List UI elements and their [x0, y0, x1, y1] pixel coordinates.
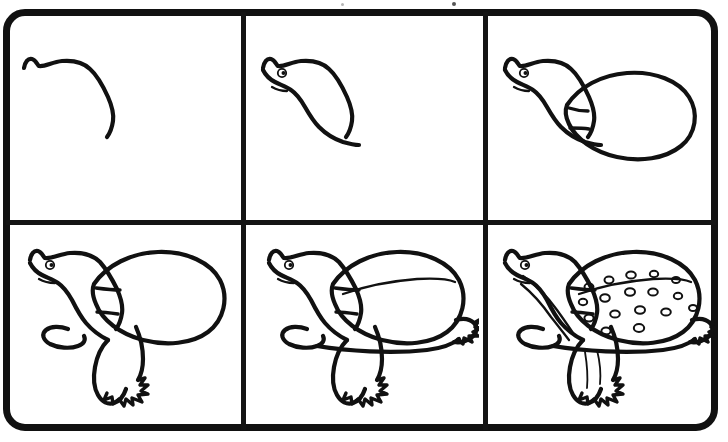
shell-neck-notch-lower — [97, 312, 118, 314]
step-6-drawing — [493, 232, 715, 428]
head-neck-top-curve — [24, 59, 113, 137]
eye-pupil — [50, 263, 54, 267]
shell-neck-notch-upper — [571, 288, 595, 290]
shell-ridge-line — [343, 279, 455, 294]
front-leg-outer-edge — [94, 340, 126, 404]
panel-divider-horizontal — [6, 220, 716, 225]
neck-stripe-lower — [521, 284, 569, 340]
front-flipper — [43, 327, 85, 348]
print-speck — [452, 2, 456, 6]
front-leg-stripe-2 — [597, 350, 600, 384]
drawing-step-panel-6 — [493, 232, 715, 428]
drawing-step-panel-2 — [251, 18, 479, 218]
step-4-drawing — [12, 232, 240, 428]
head-neck-underside-curve — [263, 70, 359, 145]
step-3-drawing — [493, 18, 715, 218]
shell-neck-notch-lower — [570, 128, 589, 129]
step-1-drawing — [12, 18, 240, 218]
step-5-drawing — [251, 232, 479, 428]
head-neck-top-curve — [505, 59, 594, 137]
shell-neck-notch-upper — [96, 288, 120, 290]
print-speck — [341, 3, 344, 6]
rear-foot-claws — [694, 320, 715, 344]
head-neck-underside-curve — [505, 70, 601, 145]
shell-neck-notch-upper — [569, 108, 588, 111]
head-neck-top-curve — [263, 59, 352, 137]
drawing-step-panel-1 — [12, 18, 240, 218]
eye-pupil — [525, 263, 529, 267]
step-2-drawing — [251, 18, 479, 218]
shell-oval — [93, 252, 225, 343]
shell-neck-notch-upper — [335, 288, 359, 290]
drawing-step-panel-4 — [12, 232, 240, 428]
eye-pupil — [282, 71, 286, 75]
shell-neck-notch-lower — [572, 312, 593, 314]
shell-neck-notch-lower — [336, 312, 357, 314]
drawing-step-panel-5 — [251, 232, 479, 428]
rear-foot-claws — [458, 320, 479, 344]
front-leg-inner-edge — [136, 327, 143, 380]
eye-pupil — [524, 71, 528, 75]
eye-pupil — [289, 263, 293, 267]
shell-oval — [332, 252, 464, 343]
drawing-step-panel-3 — [493, 18, 715, 218]
front-leg-stripe-1 — [585, 352, 587, 388]
illustration-page — [0, 0, 728, 442]
